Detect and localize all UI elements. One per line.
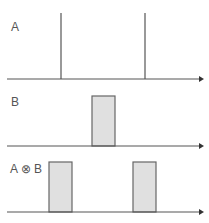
- panel-a: [7, 13, 204, 82]
- convolution-diagram: A B A ⊗ B: [0, 0, 209, 223]
- axis-arrow-icon: [199, 209, 204, 215]
- panel-a-conv-b-label: A ⊗ B: [10, 163, 42, 175]
- rectangle-pulse: [92, 96, 115, 146]
- axis-arrow-icon: [199, 76, 204, 82]
- panel-b-label: B: [11, 96, 19, 108]
- rectangle-pulse: [133, 162, 156, 212]
- rectangle-pulse: [49, 162, 72, 212]
- panel-a-label: A: [11, 21, 19, 33]
- axis-arrow-icon: [199, 143, 204, 149]
- panel-b: [7, 96, 204, 149]
- diagram-graphics: [0, 0, 209, 223]
